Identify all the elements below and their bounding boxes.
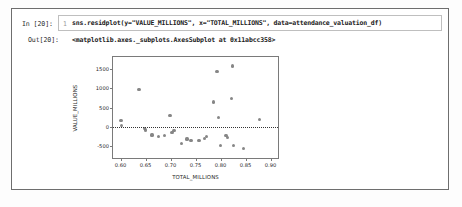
notebook-input-row: In [20]: 1 sns.residplot(y="VALUE_MILLIO…: [12, 14, 450, 34]
y-tick-mark: [110, 146, 113, 147]
x-tick-label: 0.75: [190, 162, 202, 168]
code-input-text[interactable]: sns.residplot(y="VALUE_MILLIONS", x="TOT…: [72, 19, 382, 27]
notebook-cell-frame: In [20]: 1 sns.residplot(y="VALUE_MILLIO…: [11, 8, 449, 190]
x-axis-label: TOTAL_MILLIONS: [112, 174, 279, 180]
scatter-point: [157, 135, 160, 138]
x-tick-label: 0.65: [140, 162, 152, 168]
scatter-point: [163, 134, 166, 137]
scatter-point: [226, 136, 229, 139]
scatter-point: [144, 128, 147, 131]
scatter-point: [232, 144, 235, 147]
plot-axes: 150010005000-5000.600.650.700.750.800.85…: [112, 56, 279, 159]
x-tick-label: 0.70: [165, 162, 177, 168]
x-axis-label-text: TOTAL_MILLIONS: [172, 174, 219, 180]
scatter-point: [168, 114, 171, 117]
scatter-point: [217, 116, 220, 119]
scatter-points-layer: [113, 57, 278, 158]
y-axis-label-text: VALUE_MILLIONS: [72, 84, 78, 131]
scatter-point: [242, 147, 245, 150]
y-tick-label: 500: [99, 105, 109, 111]
scatter-point: [219, 144, 222, 147]
input-prompt-label: In [20]:: [22, 20, 53, 28]
scatter-point: [185, 137, 188, 140]
scatter-point: [230, 97, 233, 100]
x-tick-mark: [121, 158, 122, 161]
y-tick-label: 1500: [96, 66, 109, 72]
scatter-point: [137, 88, 140, 91]
y-tick-label: 0: [106, 124, 109, 130]
output-repr-text: <matplotlib.axes._subplots.AxesSubplot a…: [72, 36, 275, 44]
matplotlib-figure: VALUE_MILLIONS 150010005000-5000.600.650…: [60, 47, 320, 187]
x-tick-mark: [146, 158, 147, 161]
y-tick-mark: [110, 108, 113, 109]
y-tick-mark: [110, 69, 113, 70]
y-tick-mark: [110, 127, 113, 128]
x-tick-mark: [271, 158, 272, 161]
scatter-point: [258, 118, 261, 121]
y-tick-label: 1000: [96, 85, 109, 91]
scanned-page: In [20]: 1 sns.residplot(y="VALUE_MILLIO…: [0, 0, 462, 207]
output-prompt-label: Out[20]:: [28, 36, 59, 44]
x-tick-mark: [221, 158, 222, 161]
x-tick-mark: [171, 158, 172, 161]
scatter-point: [150, 133, 153, 136]
y-tick-mark: [110, 88, 113, 89]
scatter-point: [205, 135, 208, 138]
code-input-cell[interactable]: 1 sns.residplot(y="VALUE_MILLIONS", x="T…: [58, 15, 442, 31]
x-tick-label: 0.80: [215, 162, 227, 168]
x-tick-mark: [196, 158, 197, 161]
scatter-point: [119, 119, 122, 122]
x-tick-label: 0.85: [240, 162, 252, 168]
code-line-number: 1: [63, 20, 67, 28]
scatter-point: [172, 129, 175, 132]
scatter-point: [212, 100, 215, 103]
y-tick-label: -500: [97, 143, 109, 149]
y-axis-label: VALUE_MILLIONS: [70, 56, 80, 159]
x-tick-mark: [246, 158, 247, 161]
x-tick-label: 0.60: [115, 162, 127, 168]
zero-reference-line: [113, 127, 278, 128]
scatter-point: [189, 139, 192, 142]
scatter-point: [231, 64, 234, 67]
scatter-point: [215, 70, 218, 73]
x-tick-label: 0.90: [265, 162, 277, 168]
scatter-point: [180, 142, 183, 145]
scatter-point: [197, 139, 200, 142]
